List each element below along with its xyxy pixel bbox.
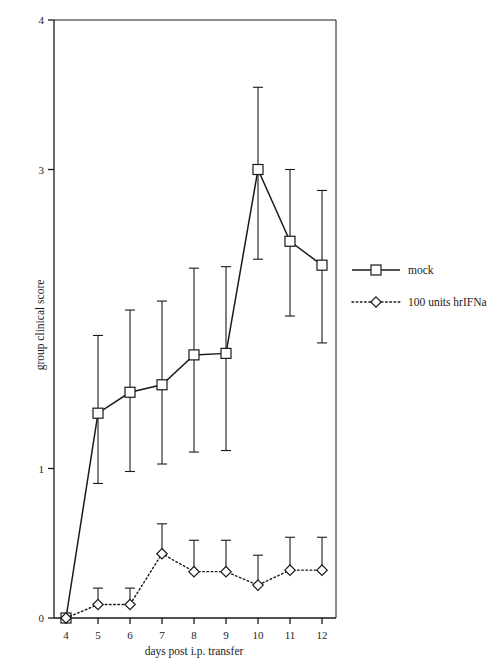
x-tick-label: 11: [285, 630, 296, 641]
chart-series-100-units-hrifna: [61, 524, 327, 623]
data-point-marker: [93, 599, 103, 609]
legend-item-100-units-hrifna[interactable]: [352, 297, 400, 307]
legend-label[interactable]: 100 units hrIFNa: [408, 296, 487, 308]
x-tick-label: 4: [63, 630, 69, 641]
data-point-marker: [157, 380, 167, 390]
data-point-marker: [93, 408, 103, 418]
chart-series-group: [61, 87, 327, 623]
x-tick-label: 8: [191, 630, 197, 641]
y-axis-label: group clinical score: [34, 245, 46, 405]
chart-legend-glyphs: [352, 265, 400, 307]
chart-figure: 0134456789101112 days post i.p. transfer…: [0, 0, 494, 670]
data-point-marker: [189, 350, 199, 360]
data-point-marker: [125, 599, 135, 609]
legend-marker-square: [371, 265, 381, 275]
y-tick-label: 1: [20, 463, 44, 474]
legend-marker-diamond: [371, 297, 381, 307]
data-point-marker: [317, 260, 327, 270]
legend-item-mock[interactable]: [352, 265, 400, 275]
data-point-marker: [253, 165, 263, 175]
data-point-marker: [125, 387, 135, 397]
data-point-marker: [285, 236, 295, 246]
x-axis-label: days post i.p. transfer: [145, 645, 244, 657]
legend-label[interactable]: mock: [408, 264, 434, 276]
chart-canvas: [0, 0, 494, 670]
data-point-marker: [253, 580, 263, 590]
y-tick-label: 0: [20, 613, 44, 624]
y-tick-label: 3: [20, 164, 44, 175]
x-tick-label: 10: [253, 630, 264, 641]
x-tick-label: 9: [223, 630, 229, 641]
chart-axes: [48, 20, 336, 624]
data-point-marker: [285, 565, 295, 575]
data-point-marker: [157, 549, 167, 559]
x-tick-label: 5: [95, 630, 101, 641]
data-point-marker: [221, 348, 231, 358]
data-point-marker: [317, 565, 327, 575]
y-tick-label: 4: [20, 15, 44, 26]
x-tick-label: 7: [159, 630, 165, 641]
x-tick-label: 12: [317, 630, 328, 641]
x-tick-label: 6: [127, 630, 133, 641]
data-point-marker: [221, 566, 231, 576]
data-point-marker: [189, 566, 199, 576]
